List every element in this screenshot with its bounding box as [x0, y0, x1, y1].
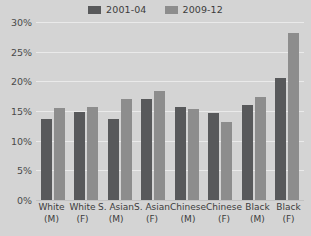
- bar: [41, 119, 52, 200]
- x-axis-tick-label-line: White: [67, 202, 98, 214]
- y-axis-tick-label: 20%: [11, 76, 32, 87]
- x-axis-tick-label-line: (M): [36, 214, 67, 226]
- legend-swatch-icon: [88, 6, 101, 14]
- bar: [208, 113, 219, 200]
- x-axis-tick-label-line: (M): [242, 214, 273, 226]
- x-axis-tick-label-line: Black: [273, 202, 304, 214]
- bar-group: [103, 22, 137, 200]
- x-axis-tick-label-line: (M): [98, 214, 134, 226]
- y-axis-tick-label: 25%: [11, 46, 32, 57]
- y-axis-tick-label: 30%: [11, 17, 32, 28]
- x-axis-tick-label-line: (F): [206, 214, 242, 226]
- bar: [154, 91, 165, 200]
- bar: [242, 105, 253, 200]
- bar-group: [36, 22, 70, 200]
- x-axis-tick-label-line: (F): [134, 214, 170, 226]
- x-axis-tick-label-line: White: [36, 202, 67, 214]
- bar-group: [170, 22, 204, 200]
- bar: [54, 108, 65, 200]
- x-axis-tick-label-line: (F): [67, 214, 98, 226]
- x-axis-tick-label-line: Chinese: [170, 202, 206, 214]
- x-axis-tick-label-line: (F): [273, 214, 304, 226]
- x-axis-tick-label-line: Black: [242, 202, 273, 214]
- bar-group: [237, 22, 271, 200]
- axis-baseline: [36, 200, 304, 201]
- y-axis-tick-label: 10%: [11, 135, 32, 146]
- chart-legend: 2001-04 2009-12: [0, 4, 311, 15]
- bar: [74, 112, 85, 200]
- x-axis-tick-label: Chinese(M): [170, 202, 206, 225]
- legend-entry-2001-04: 2001-04: [88, 4, 146, 15]
- bar: [188, 109, 199, 200]
- bar: [175, 107, 186, 200]
- bar-group: [70, 22, 104, 200]
- bar-group: [271, 22, 305, 200]
- bar-group: [204, 22, 238, 200]
- x-axis-tick-label-line: (M): [170, 214, 206, 226]
- bar: [255, 97, 266, 200]
- x-axis-tick-label: White(F): [67, 202, 98, 225]
- legend-label: 2009-12: [183, 4, 223, 15]
- bar-group: [137, 22, 171, 200]
- legend-label: 2001-04: [106, 4, 146, 15]
- x-axis-tick-label: Black(M): [242, 202, 273, 225]
- x-axis-tick-label: Black(F): [273, 202, 304, 225]
- bar: [121, 99, 132, 200]
- bar: [141, 99, 152, 200]
- bar: [275, 78, 286, 200]
- x-axis: White(M)White(F)S. Asian(M)S. Asian(F)Ch…: [36, 202, 304, 225]
- y-axis-tick-label: 5%: [17, 165, 32, 176]
- y-axis: 0%5%10%15%20%25%30%: [0, 22, 32, 200]
- x-axis-tick-label: Chinese(F): [206, 202, 242, 225]
- x-axis-tick-label: S. Asian(M): [98, 202, 134, 225]
- x-axis-tick-label-line: Chinese: [206, 202, 242, 214]
- legend-swatch-icon: [165, 6, 178, 14]
- bar: [288, 33, 299, 200]
- bars-layer: [36, 22, 304, 200]
- bar: [108, 119, 119, 200]
- bar-chart: 2001-04 2009-12 0%5%10%15%20%25%30% Whit…: [0, 0, 311, 236]
- x-axis-tick-label-line: S. Asian: [98, 202, 134, 214]
- y-axis-tick-label: 15%: [11, 106, 32, 117]
- legend-entry-2009-12: 2009-12: [165, 4, 223, 15]
- bar: [87, 107, 98, 200]
- y-axis-tick-label: 0%: [17, 195, 32, 206]
- x-axis-tick-label-line: S. Asian: [134, 202, 170, 214]
- x-axis-tick-label: White(M): [36, 202, 67, 225]
- x-axis-tick-label: S. Asian(F): [134, 202, 170, 225]
- bar: [221, 122, 232, 200]
